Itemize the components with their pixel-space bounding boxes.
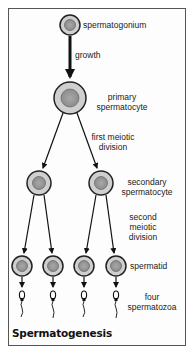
division-arrow [43, 113, 63, 168]
label-secondary-line2: spermatocyte [118, 187, 176, 197]
division-arrow [44, 195, 52, 253]
diagram-title: Spermatogenesis [12, 327, 112, 339]
division-arrow [86, 195, 96, 253]
label-first-division-line1: first meiotic [88, 132, 138, 142]
spermatozoon-icon [19, 291, 24, 317]
spermatogonium-cell [60, 15, 80, 35]
label-four-line1: four [124, 292, 180, 302]
spermatozoon-icon [81, 291, 86, 317]
label-first-division-line2: division [88, 142, 138, 152]
label-four-line2: spermatozoa [124, 302, 180, 312]
spermatid-cell [12, 256, 32, 276]
spermatozoon-icon [113, 291, 118, 318]
label-secondary-line1: secondary [118, 177, 176, 187]
label-second-division-line1: second [120, 212, 166, 222]
label-second-division-line2: meiotic [120, 222, 166, 232]
label-second-division-line3: division [120, 232, 166, 242]
label-growth: growth [75, 50, 101, 60]
spermatid-cell [74, 256, 94, 276]
spermatid-cell [106, 256, 126, 276]
label-spermatid: spermatid [130, 261, 167, 271]
secondary-spermatocyte-cell-right [89, 171, 113, 195]
division-arrow [24, 195, 34, 253]
label-primary-line2: spermatocyte [94, 102, 150, 112]
spermatid-cell [43, 256, 63, 276]
spermatozoon-icon [50, 291, 55, 318]
primary-spermatocyte-cell [54, 82, 86, 114]
label-spermatogonium: spermatogonium [83, 20, 146, 30]
label-primary-line1: primary [94, 92, 150, 102]
secondary-spermatocyte-cell-left [27, 171, 51, 195]
division-arrow [106, 195, 114, 253]
